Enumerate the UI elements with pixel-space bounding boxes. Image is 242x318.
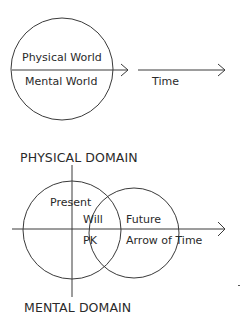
physical-world-label: Physical World — [22, 52, 102, 63]
mental-world-label: Mental World — [25, 76, 97, 87]
present-label: Present — [50, 197, 91, 208]
world-circle — [11, 18, 113, 120]
arrow-of-time-label: Arrow of Time — [126, 235, 202, 246]
future-label: Future — [126, 214, 161, 225]
time-label: Time — [152, 76, 179, 87]
stray-mark — [238, 285, 240, 286]
future-circle — [89, 188, 179, 278]
will-label: Will — [83, 214, 103, 225]
physical-domain-heading: PHYSICAL DOMAIN — [20, 152, 138, 165]
pk-label: PK — [83, 235, 97, 246]
mental-domain-heading: MENTAL DOMAIN — [24, 302, 131, 315]
